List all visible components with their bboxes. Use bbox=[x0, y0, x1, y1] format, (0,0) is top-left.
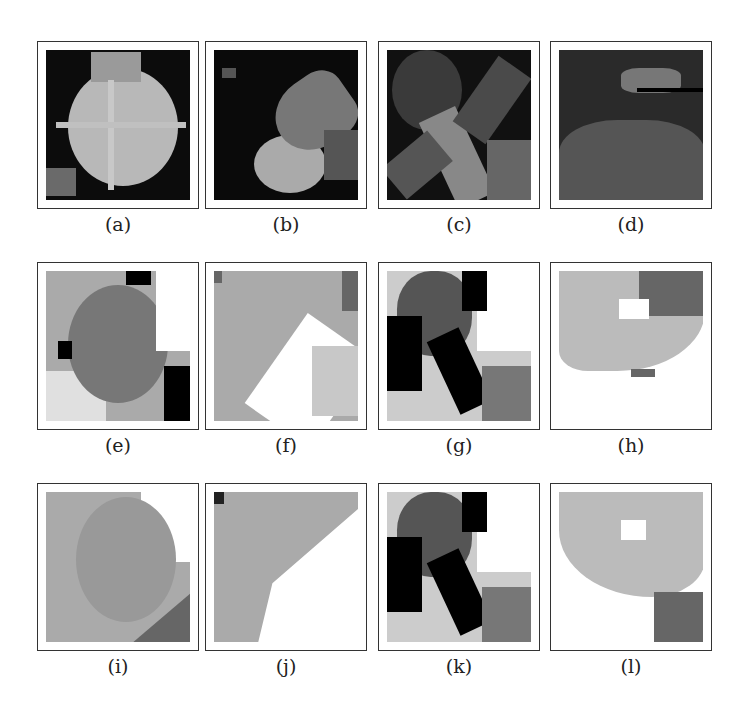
caption-d: (d) bbox=[550, 213, 712, 235]
caption-l: (l) bbox=[550, 655, 712, 677]
caption-a: (a) bbox=[37, 213, 199, 235]
image-c bbox=[387, 50, 531, 200]
caption-b: (b) bbox=[205, 213, 367, 235]
panel-c bbox=[378, 41, 540, 209]
caption-i: (i) bbox=[37, 655, 199, 677]
image-e bbox=[46, 271, 190, 421]
image-j bbox=[214, 492, 358, 642]
caption-g: (g) bbox=[378, 434, 540, 456]
image-h bbox=[559, 271, 703, 421]
image-i bbox=[46, 492, 190, 642]
image-k bbox=[387, 492, 531, 642]
image-d bbox=[559, 50, 703, 200]
caption-f: (f) bbox=[205, 434, 367, 456]
image-f bbox=[214, 271, 358, 421]
panel-k bbox=[378, 483, 540, 651]
panel-l bbox=[550, 483, 712, 651]
image-a bbox=[46, 50, 190, 200]
panel-g bbox=[378, 262, 540, 430]
caption-j: (j) bbox=[205, 655, 367, 677]
panel-i bbox=[37, 483, 199, 651]
image-b bbox=[214, 50, 358, 200]
image-l bbox=[559, 492, 703, 642]
caption-c: (c) bbox=[378, 213, 540, 235]
caption-e: (e) bbox=[37, 434, 199, 456]
panel-j bbox=[205, 483, 367, 651]
image-g bbox=[387, 271, 531, 421]
caption-h: (h) bbox=[550, 434, 712, 456]
panel-h bbox=[550, 262, 712, 430]
panel-e bbox=[37, 262, 199, 430]
panel-b bbox=[205, 41, 367, 209]
caption-k: (k) bbox=[378, 655, 540, 677]
panel-d bbox=[550, 41, 712, 209]
panel-f bbox=[205, 262, 367, 430]
panel-a bbox=[37, 41, 199, 209]
